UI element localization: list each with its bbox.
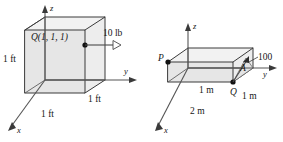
right-point-p-label: P: [157, 53, 164, 63]
right-dim-depth-label: 1 m: [199, 85, 214, 95]
right-point-a-label: A: [239, 63, 246, 73]
right-z-axis-arrowhead: [185, 23, 191, 31]
right-point-q-label: Q: [230, 87, 237, 97]
figure-root: z y x Q(1, 1, 1) 10 lb 1 ft 1 ft 1 ft: [0, 0, 283, 142]
right-force-label: 100: [258, 52, 273, 62]
right-y-axis-label: y: [262, 69, 267, 79]
right-dim-width-label: 2 m: [190, 106, 205, 116]
slab-front-face: [168, 62, 233, 82]
right-x-axis-label: x: [163, 125, 168, 135]
right-figure: z y x P Q A 100 1 m 1 m 2 m: [0, 0, 283, 142]
right-y-axis-arrowhead: [269, 65, 277, 71]
right-point-p-marker: [165, 59, 170, 64]
right-z-axis-label: z: [192, 21, 197, 31]
right-dim-height-label: 1 m: [242, 91, 257, 101]
